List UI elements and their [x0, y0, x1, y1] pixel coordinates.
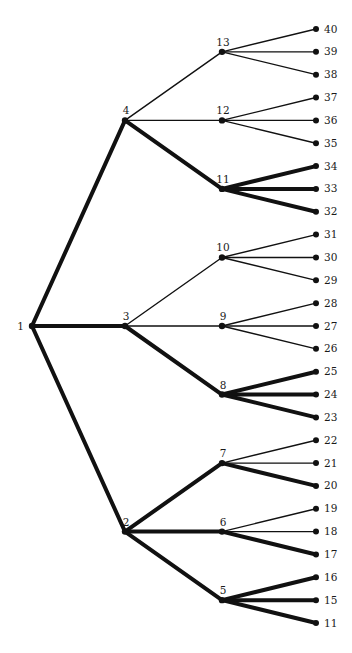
node-label-14: 11: [324, 617, 337, 629]
node-5: [219, 597, 225, 603]
node-label-13: 13: [216, 36, 229, 48]
node-label-17: 17: [324, 548, 337, 560]
node-label-6: 6: [220, 516, 227, 528]
edge-8-23: [222, 395, 316, 418]
node-label-27: 27: [324, 320, 337, 332]
node-label-23: 23: [324, 411, 337, 423]
node-27: [313, 323, 319, 329]
edge-9-28: [222, 303, 316, 326]
edge-9-26: [222, 326, 316, 349]
node-8: [219, 391, 225, 397]
edge-10-31: [222, 235, 316, 258]
edge-3-8: [125, 326, 222, 395]
node-label-7: 7: [220, 447, 227, 459]
tree-diagram: 1432131211109876540393837363534333231302…: [0, 0, 352, 653]
edge-4-11: [125, 120, 222, 189]
edge-12-37: [222, 98, 316, 121]
node-label-3: 3: [123, 310, 130, 322]
node-26: [313, 346, 319, 352]
node-32: [313, 209, 319, 215]
node-label-40: 40: [324, 23, 337, 35]
node-18: [313, 529, 319, 535]
node-39: [313, 49, 319, 55]
edge-7-22: [222, 440, 316, 463]
node-31: [313, 232, 319, 238]
node-label-35: 35: [324, 137, 337, 149]
node-20: [313, 483, 319, 489]
node-29: [313, 277, 319, 283]
node-16: [313, 574, 319, 580]
node-label-34: 34: [324, 160, 338, 172]
node-label-36: 36: [324, 114, 338, 126]
node-label-10: 10: [216, 241, 229, 253]
node-label-4: 4: [123, 104, 130, 116]
node-22: [313, 437, 319, 443]
node-19: [313, 506, 319, 512]
edge-10-29: [222, 257, 316, 280]
node-38: [313, 72, 319, 78]
node-label-24: 24: [324, 388, 338, 400]
node-label-38: 38: [324, 68, 337, 80]
node-36: [313, 117, 319, 123]
node-25: [313, 369, 319, 375]
edge-4-13: [125, 52, 222, 121]
edge-3-10: [125, 257, 222, 326]
node-10: [219, 254, 225, 260]
node-1: [29, 323, 35, 329]
node-label-12: 12: [216, 104, 229, 116]
node-label-33: 33: [324, 182, 337, 194]
node-label-16: 16: [324, 571, 338, 583]
node-label-29: 29: [324, 274, 337, 286]
node-15: [313, 597, 319, 603]
node-4: [122, 117, 128, 123]
edge-6-19: [222, 509, 316, 532]
node-label-11: 11: [216, 173, 229, 185]
edge-13-38: [222, 52, 316, 75]
node-33: [313, 186, 319, 192]
node-label-18: 18: [324, 525, 337, 537]
edge-2-7: [125, 463, 222, 532]
node-label-22: 22: [324, 434, 337, 446]
edges-layer: [32, 29, 316, 623]
node-35: [313, 140, 319, 146]
node-7: [219, 460, 225, 466]
node-2: [122, 528, 128, 534]
edge-6-17: [222, 532, 316, 555]
edge-7-20: [222, 463, 316, 486]
node-label-8: 8: [220, 379, 227, 391]
node-24: [313, 392, 319, 398]
node-label-21: 21: [324, 457, 337, 469]
node-label-9: 9: [220, 310, 227, 322]
node-14: [313, 620, 319, 626]
edge-5-14: [222, 600, 316, 623]
node-label-20: 20: [324, 479, 337, 491]
node-23: [313, 414, 319, 420]
node-label-39: 39: [324, 45, 337, 57]
node-6: [219, 528, 225, 534]
edge-11-34: [222, 166, 316, 189]
node-label-26: 26: [324, 342, 338, 354]
node-label-32: 32: [324, 205, 337, 217]
node-17: [313, 551, 319, 557]
node-9: [219, 323, 225, 329]
node-11: [219, 186, 225, 192]
edge-12-35: [222, 120, 316, 143]
edge-5-16: [222, 577, 316, 600]
node-37: [313, 95, 319, 101]
node-label-19: 19: [324, 502, 337, 514]
node-13: [219, 49, 225, 55]
edge-11-32: [222, 189, 316, 212]
node-label-5: 5: [220, 584, 227, 596]
node-30: [313, 254, 319, 260]
node-21: [313, 460, 319, 466]
node-40: [313, 26, 319, 32]
node-28: [313, 300, 319, 306]
node-3: [122, 323, 128, 329]
node-12: [219, 117, 225, 123]
edge-2-5: [125, 532, 222, 601]
edge-1-4: [32, 120, 125, 326]
node-label-30: 30: [324, 251, 337, 263]
node-label-1: 1: [17, 320, 24, 332]
node-label-15: 15: [324, 594, 337, 606]
edge-13-40: [222, 29, 316, 52]
